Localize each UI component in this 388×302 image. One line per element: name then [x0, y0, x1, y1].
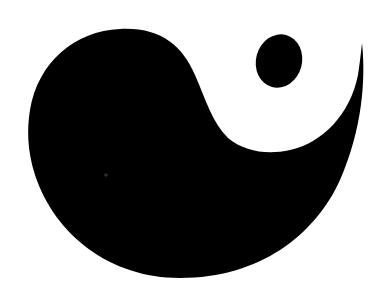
yin-yang-icon — [0, 0, 388, 302]
black-dot-shape — [250, 29, 308, 93]
black-teardrop-shape — [28, 29, 363, 278]
yin-yang-canvas — [0, 0, 388, 302]
